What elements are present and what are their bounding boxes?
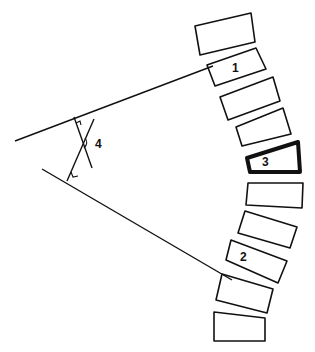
vertebra-v1 <box>195 13 255 55</box>
vertebra-v5 <box>247 142 300 172</box>
measurement-lines <box>15 66 232 280</box>
cobb-angle-diagram: 132 4 <box>0 0 315 352</box>
vertebra-label-2: 2 <box>240 250 247 264</box>
perpendicular-lower-line <box>67 119 94 181</box>
right-angle-mark-lower <box>71 172 78 177</box>
vertebra-v6 <box>246 183 303 208</box>
vertebra-v8 <box>226 240 287 283</box>
angle-label: 4 <box>95 137 102 151</box>
vertebra-label-1: 1 <box>232 61 239 75</box>
vertebra-v10 <box>214 312 265 341</box>
upper-endplate-line <box>15 66 213 141</box>
vertebra-v9 <box>216 274 273 313</box>
vertebra-v7 <box>238 211 297 248</box>
vertebrae-column: 132 <box>195 13 303 341</box>
lower-endplate-line <box>42 169 232 280</box>
vertebra-label-3: 3 <box>262 155 269 169</box>
